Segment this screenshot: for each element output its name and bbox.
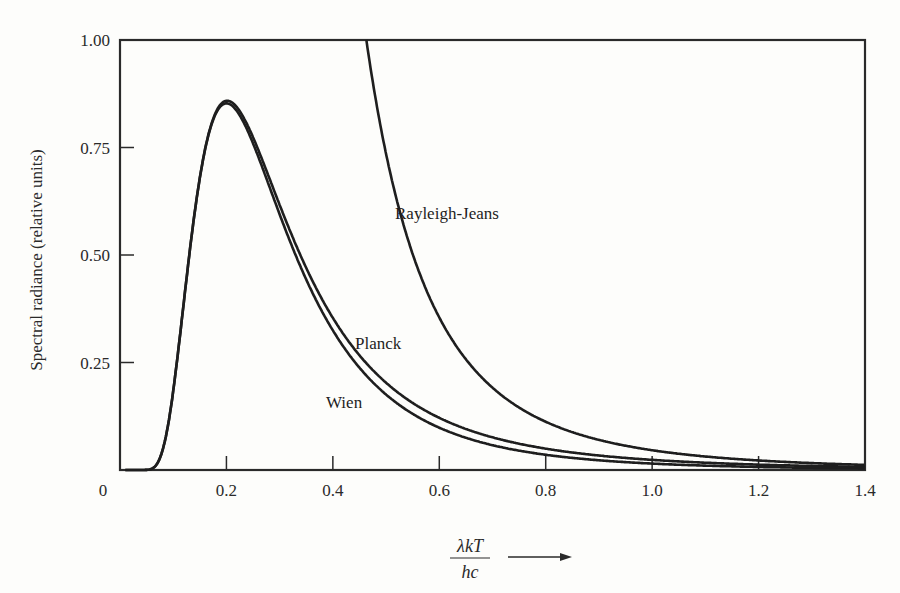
y-tick-label: 1.00 — [80, 31, 110, 50]
x-tick-label: 1.4 — [854, 481, 876, 500]
x-axis: 00.20.40.60.81.01.21.4 — [99, 456, 876, 500]
x-tick-label: 0.4 — [322, 481, 344, 500]
x-tick-label: 0.6 — [429, 481, 450, 500]
x-tick-label: 0.8 — [535, 481, 556, 500]
y-tick-label: 0.25 — [80, 354, 110, 373]
svg-text:hc: hc — [462, 562, 479, 582]
curve-wien — [125, 103, 865, 470]
svg-text:λkT: λkT — [456, 536, 485, 556]
y-axis: 0.250.500.751.00 — [80, 31, 134, 373]
curve-planck — [125, 101, 865, 470]
origin-label: 0 — [99, 481, 108, 500]
x-tick-label: 1.2 — [748, 481, 769, 500]
y-tick-label: 0.75 — [80, 139, 110, 158]
spectral-radiance-chart: 0.250.500.751.00 00.20.40.60.81.01.21.4 … — [0, 0, 900, 593]
x-tick-label: 1.0 — [642, 481, 663, 500]
curves — [125, 40, 865, 470]
curve-labels: Rayleigh-Jeans Planck Wien — [326, 204, 499, 412]
y-tick-label: 0.50 — [80, 246, 110, 265]
curve-rayleigh-jeans — [366, 40, 864, 465]
y-axis-title: Spectral radiance (relative units) — [27, 149, 46, 370]
x-axis-title: λkT hc — [450, 536, 572, 582]
svg-text:Spectral radiance (relative un: Spectral radiance (relative units) — [27, 149, 46, 370]
label-planck: Planck — [355, 334, 402, 353]
x-tick-label: 0.2 — [216, 481, 237, 500]
label-rayleigh-jeans: Rayleigh-Jeans — [395, 204, 499, 223]
arrow-right-icon — [508, 553, 572, 561]
label-wien: Wien — [326, 393, 363, 412]
